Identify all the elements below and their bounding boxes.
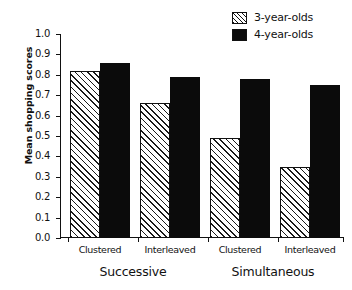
y-tick-mark: 1.0 [56,34,60,35]
legend-label-3-year-olds: 3-year-olds [254,12,313,24]
x-group-label-simultaneous: Simultaneous [232,264,315,279]
x-group-label-successive: Successive [100,264,167,279]
x-category-label-simultaneous-interleaved: Interleaved [285,244,336,255]
bar-4-year-olds-simultaneous-clustered [240,79,270,238]
legend-item-3-year-olds: 3-year-olds [232,10,350,25]
x-category-label-simultaneous-clustered: Clustered [219,244,262,255]
y-tick-mark: 0.6 [56,116,60,117]
y-tick-label: 0.5 [35,131,50,141]
y-tick-mark: 0.0 [56,238,60,239]
y-tick-mark: 0.3 [56,177,60,178]
bar-3-year-olds-successive-clustered [70,71,100,238]
x-tick-mark [343,238,344,242]
y-axis-line [60,34,61,239]
y-tick-mark: 0.4 [56,156,60,157]
y-tick-label: 1.0 [35,29,50,39]
bar-4-year-olds-successive-interleaved [170,77,200,238]
y-tick-mark: 0.5 [56,136,60,137]
x-tick-mark [68,238,69,242]
y-tick-label: 0.8 [35,70,50,80]
x-tick-mark [208,238,209,242]
y-tick-label: 0.2 [35,192,50,202]
x-category-label-successive-interleaved: Interleaved [145,244,196,255]
y-tick-label: 0.9 [35,49,50,59]
y-tick-label: 0.4 [35,151,50,161]
y-tick-label: 0.0 [35,233,50,243]
bar-3-year-olds-simultaneous-interleaved [280,167,310,238]
y-tick-mark: 0.7 [56,95,60,96]
y-tick-mark: 0.9 [56,54,60,55]
y-tick-label: 0.1 [35,213,50,223]
y-tick-mark: 0.1 [56,218,60,219]
bar-4-year-olds-successive-clustered [100,63,130,238]
x-tick-mark [138,238,139,242]
plot-area: 1.0 0.9 0.8 0.7 0.6 0.5 0.4 0.3 0.2 0.1 … [60,34,343,238]
y-tick-mark: 0.2 [56,197,60,198]
x-category-label-successive-clustered: Clustered [79,244,122,255]
bar-4-year-olds-simultaneous-interleaved [310,85,340,238]
bar-3-year-olds-successive-interleaved [140,103,170,238]
y-axis-title: Mean shopping scores [23,26,34,186]
y-tick-label: 0.7 [35,90,50,100]
y-tick-label: 0.6 [35,111,50,121]
y-tick-label: 0.3 [35,172,50,182]
legend-swatch-hatched-icon [232,12,247,24]
bar-3-year-olds-simultaneous-clustered [210,138,240,238]
y-tick-mark: 0.8 [56,75,60,76]
x-tick-mark [278,238,279,242]
bar-chart-figure: 3-year-olds 4-year-olds Mean shopping sc… [0,0,352,290]
